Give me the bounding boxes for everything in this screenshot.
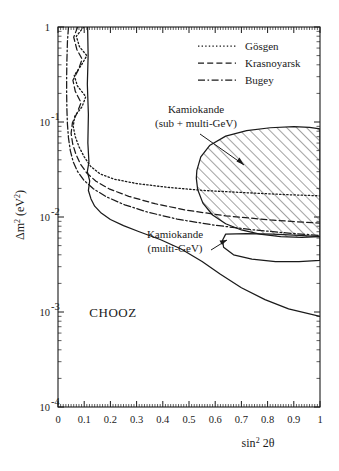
svg-text:10: 10 — [40, 212, 51, 223]
legend-label-g-sgen: Gösgen — [245, 40, 279, 52]
svg-text:-3: -3 — [51, 301, 60, 312]
x-tick-label: 0.9 — [287, 414, 300, 425]
x-tick-label: 1 — [317, 414, 322, 425]
annotation-chooz: CHOOZ — [89, 305, 136, 320]
svg-text:(sub + multi-GeV): (sub + multi-GeV) — [155, 117, 237, 130]
legend-label-bugey: Bugey — [245, 74, 274, 86]
svg-text:-4: -4 — [51, 396, 60, 407]
svg-text:1: 1 — [45, 22, 50, 33]
x-tick-label: 0 — [55, 414, 60, 425]
svg-text:10: 10 — [40, 117, 51, 128]
x-tick-label: 0.5 — [182, 414, 195, 425]
exclusion-plot-figure: 00.10.20.30.40.50.60.70.80.91 110-110-21… — [0, 0, 339, 471]
svg-text:-2: -2 — [51, 206, 60, 217]
x-tick-label: 0.4 — [156, 414, 170, 425]
x-tick-label: 0.8 — [261, 414, 274, 425]
svg-text:10: 10 — [40, 307, 51, 318]
svg-text:Kamiokande: Kamiokande — [147, 228, 203, 240]
neutrino-oscillation-exclusion-plot: 00.10.20.30.40.50.60.70.80.91 110-110-21… — [0, 0, 339, 471]
y-tick-label: 1 — [45, 22, 50, 33]
svg-text:(multi-GeV): (multi-GeV) — [148, 242, 203, 255]
svg-text:Kamiokande: Kamiokande — [168, 103, 224, 115]
x-tick-label: 0.2 — [104, 414, 117, 425]
x-tick-label: 0.7 — [235, 414, 248, 425]
svg-text:10: 10 — [40, 402, 51, 413]
x-tick-label: 0.6 — [209, 414, 222, 425]
x-tick-label: 0.3 — [130, 414, 143, 425]
x-tick-label: 0.1 — [78, 414, 91, 425]
legend-label-krasnoyarsk: Krasnoyarsk — [245, 57, 301, 69]
svg-text:-1: -1 — [51, 111, 60, 122]
